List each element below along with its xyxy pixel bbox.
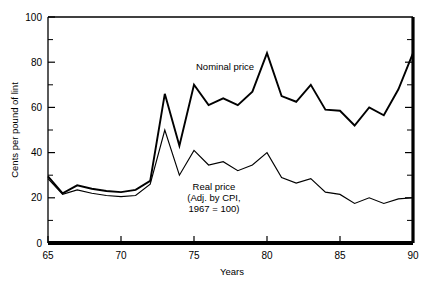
x-axis-title: Years (220, 266, 244, 277)
y-tick-label-20: 20 (31, 192, 43, 203)
x-tick-label-75: 75 (188, 250, 200, 261)
x-tick-label-80: 80 (261, 250, 273, 261)
real-price-annotation-line-2: (Adj. by CPI, (187, 192, 240, 203)
y-tick-label-40: 40 (31, 147, 43, 158)
x-tick-label-70: 70 (115, 250, 127, 261)
y-tick-label-60: 60 (31, 102, 43, 113)
y-axis-title: Cents per pound of lint (9, 82, 20, 178)
real-price-annotation-line-1: Real price (193, 181, 236, 192)
y-tick-label-0: 0 (36, 238, 42, 249)
x-tick-label-65: 65 (42, 250, 54, 261)
y-tick-label-80: 80 (31, 57, 43, 68)
price-chart: 0 20 40 60 80 100 65 70 75 80 85 90 Year… (0, 0, 435, 287)
y-tick-label-100: 100 (25, 12, 42, 23)
x-tick-label-90: 90 (407, 250, 419, 261)
x-tick-label-85: 85 (334, 250, 346, 261)
chart-figure: 0 20 40 60 80 100 65 70 75 80 85 90 Year… (0, 0, 435, 287)
real-price-annotation: Real price (Adj. by CPI, 1967 = 100) (187, 181, 240, 214)
nominal-price-annotation: Nominal price (196, 61, 254, 72)
real-price-annotation-line-3: 1967 = 100) (189, 203, 240, 214)
